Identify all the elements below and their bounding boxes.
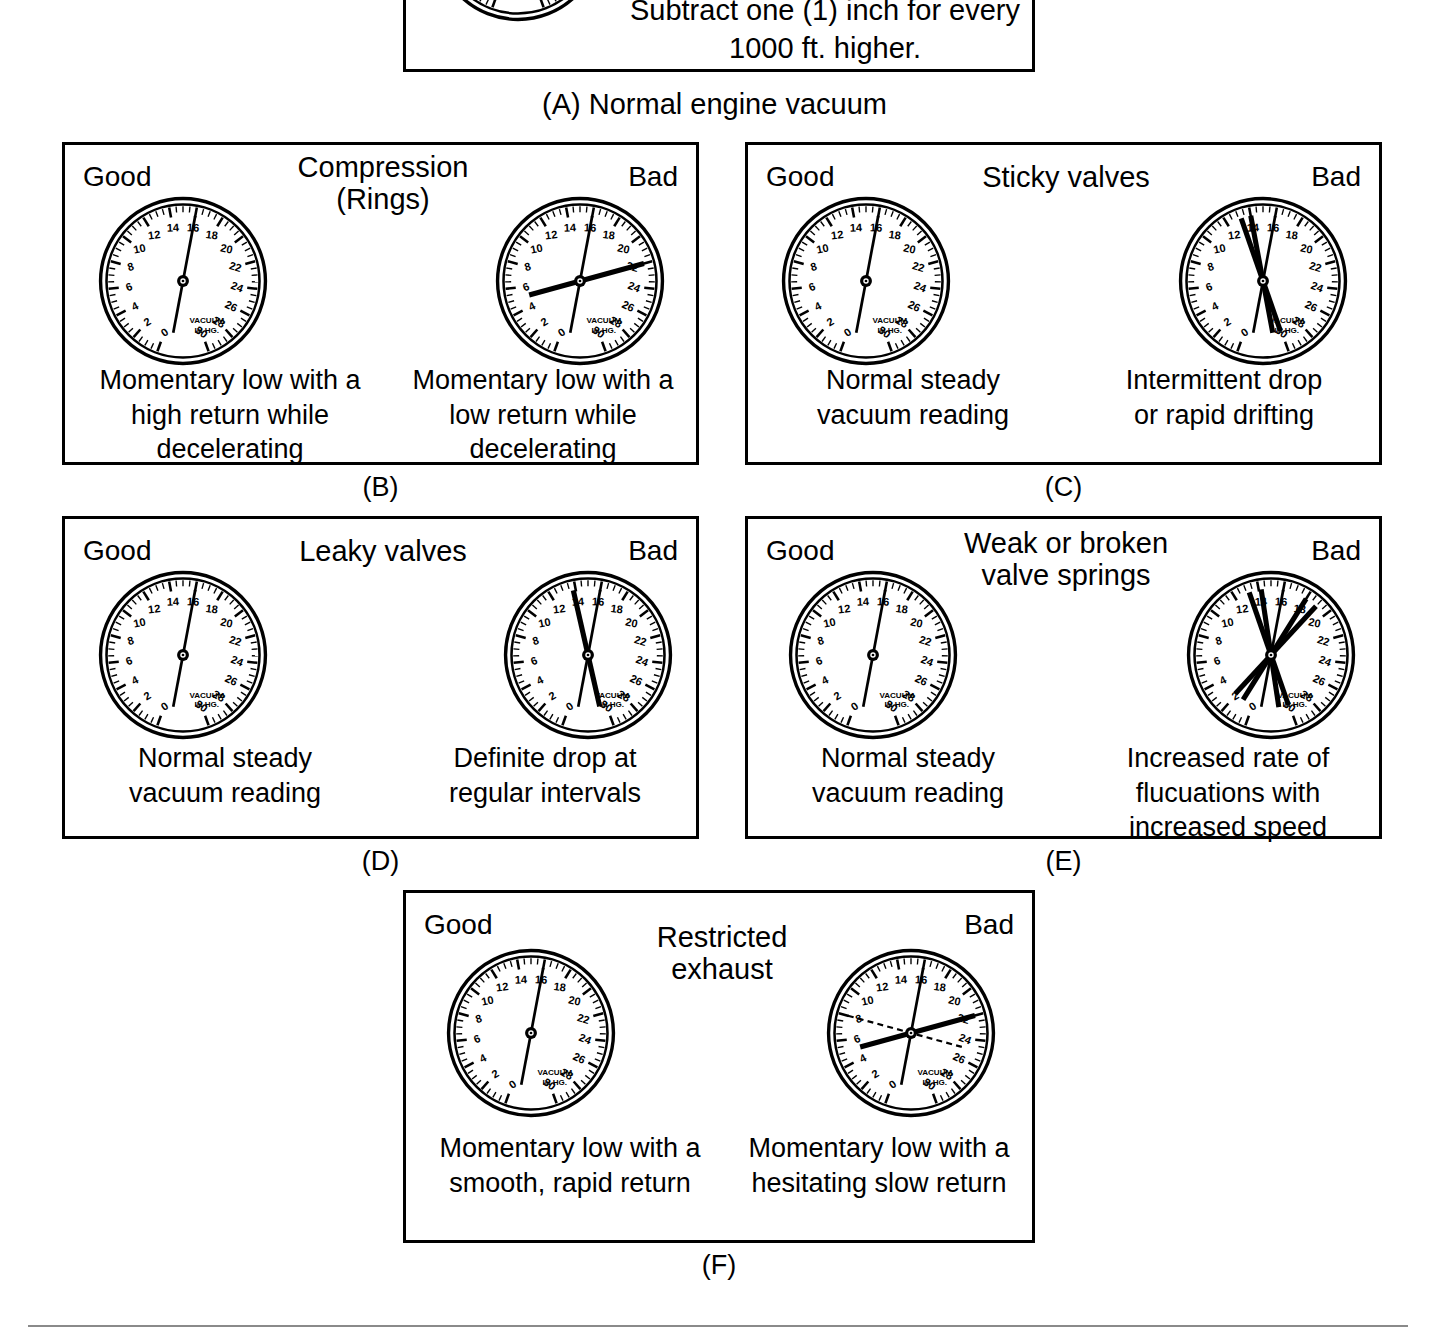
svg-text:10: 10 [480, 993, 494, 1007]
panel-e-good-label: Good [766, 535, 835, 567]
panel-f-good-label: Good [424, 909, 493, 941]
svg-text:10: 10 [1212, 241, 1226, 255]
gauge-panel-f-good: 024681012141618202224262830VACUUMIN HG. [446, 948, 616, 1118]
svg-text:18: 18 [602, 228, 616, 241]
svg-text:IN HG.: IN HG. [922, 1078, 947, 1087]
svg-text:VACUUM: VACUUM [917, 1069, 952, 1078]
panel-c-bad-label: Bad [1311, 161, 1361, 193]
svg-text:IN HG.: IN HG. [877, 326, 902, 335]
panel-e: Good Bad Weak or broken valve springs 02… [745, 516, 1382, 839]
svg-text:12: 12 [147, 228, 161, 241]
gauge-panel-d-bad: 024681012141618202224262830VACUUMIN HG. [503, 570, 673, 740]
panel-b-bad-label: Bad [628, 161, 678, 193]
panel-c-header-line1: Sticky valves [916, 161, 1216, 193]
panel-e-header-line2: valve springs [916, 559, 1216, 591]
svg-text:IN HG.: IN HG. [194, 700, 219, 709]
panel-d-good-label: Good [83, 535, 152, 567]
svg-text:10: 10 [529, 241, 543, 255]
svg-text:12: 12 [147, 602, 161, 615]
svg-text:IN HG.: IN HG. [599, 700, 624, 709]
panel-d-letter: (D) [62, 846, 699, 877]
svg-text:10: 10 [1220, 615, 1234, 629]
panel-c: Good Bad Sticky valves 02468101214161820… [745, 142, 1382, 465]
svg-text:14: 14 [515, 973, 529, 986]
panel-e-bad-caption: Increased rate of flucuations with incre… [1078, 741, 1378, 845]
svg-text:12: 12 [830, 228, 844, 241]
footer-divider [28, 1325, 1408, 1327]
svg-text:10: 10 [537, 615, 551, 629]
panel-c-letter: (C) [745, 472, 1382, 503]
svg-text:14: 14 [857, 595, 871, 608]
svg-text:20: 20 [1299, 241, 1313, 255]
panel-b-header-line1: Compression [233, 151, 533, 183]
panel-c-good-caption: Normal steady vacuum reading [758, 363, 1068, 432]
svg-text:IN HG.: IN HG. [194, 326, 219, 335]
gauge-panel-e-bad: 024681012141618202224262830VACUUMIN HG. [1186, 570, 1356, 740]
svg-text:14: 14 [167, 221, 181, 234]
svg-text:14: 14 [167, 595, 181, 608]
svg-text:20: 20 [947, 993, 961, 1007]
gauge-panel-c-good: 024681012141618202224262830VACUUMIN HG. [781, 196, 951, 366]
svg-text:IN HG.: IN HG. [542, 1078, 567, 1087]
panel-e-good-caption: Normal steady vacuum reading [758, 741, 1058, 810]
svg-text:14: 14 [564, 221, 578, 234]
svg-text:18: 18 [888, 228, 902, 241]
gauge-panel-e-good: 024681012141618202224262830VACUUMIN HG. [788, 570, 958, 740]
svg-text:20: 20 [616, 241, 630, 255]
panel-d-good-caption: Normal steady vacuum reading [75, 741, 375, 810]
svg-text:10: 10 [815, 241, 829, 255]
panel-b-good-label: Good [83, 161, 152, 193]
svg-text:14: 14 [850, 221, 864, 234]
panel-f-good-caption: Momentary low with a smooth, rapid retur… [410, 1131, 730, 1200]
panel-e-header: Weak or broken valve springs [916, 527, 1216, 592]
svg-text:18: 18 [610, 602, 624, 615]
panel-d-header-line1: Leaky valves [233, 535, 533, 567]
svg-text:10: 10 [132, 615, 146, 629]
svg-text:20: 20 [219, 241, 233, 255]
svg-text:20: 20 [567, 993, 581, 1007]
svg-text:VACUUM: VACUUM [872, 317, 907, 326]
panel-e-header-line1: Weak or broken [916, 527, 1216, 559]
panel-a-caption: (A) Normal engine vacuum [0, 88, 1429, 121]
panel-c-good-label: Good [766, 161, 835, 193]
panel-b-header: Compression (Rings) [233, 151, 533, 216]
svg-text:12: 12 [837, 602, 851, 615]
panel-b-good-caption: Momentary low with a high return while d… [70, 363, 390, 467]
gauge-panel-a: 024681012141618202224262830VACUUMIN HG. [433, 0, 603, 22]
svg-text:18: 18 [895, 602, 909, 615]
svg-text:VACUUM: VACUUM [189, 317, 224, 326]
svg-text:12: 12 [1235, 602, 1249, 615]
panel-f-letter: (F) [403, 1250, 1035, 1281]
svg-text:18: 18 [553, 980, 567, 993]
svg-text:18: 18 [205, 602, 219, 615]
svg-text:14: 14 [895, 973, 909, 986]
panel-e-bad-label: Bad [1311, 535, 1361, 567]
gauge-panel-c-bad: 024681012141618202224262830VACUUMIN HG. [1178, 196, 1348, 366]
svg-text:IN HG.: IN HG. [884, 700, 909, 709]
panel-b: Good Bad Compression (Rings) 02468101214… [62, 142, 699, 465]
svg-text:18: 18 [933, 980, 947, 993]
svg-text:10: 10 [822, 615, 836, 629]
panel-f: Good Bad Restricted exhaust 024681012141… [403, 890, 1035, 1243]
panel-b-header-line2: (Rings) [233, 183, 533, 215]
svg-text:12: 12 [544, 228, 558, 241]
svg-text:12: 12 [495, 980, 509, 993]
svg-text:VACUUM: VACUUM [189, 691, 224, 700]
svg-text:20: 20 [1307, 615, 1321, 629]
svg-text:18: 18 [1285, 228, 1299, 241]
panel-c-header: Sticky valves [916, 161, 1216, 193]
panel-f-bad-label: Bad [964, 909, 1014, 941]
svg-text:VACUUM: VACUUM [586, 317, 621, 326]
svg-text:10: 10 [132, 241, 146, 255]
gauge-panel-f-bad: 024681012141618202224262830VACUUMIN HG. [826, 948, 996, 1118]
svg-text:18: 18 [205, 228, 219, 241]
svg-text:12: 12 [875, 980, 889, 993]
gauge-panel-b-bad: 024681012141618202224262830VACUUMIN HG. [495, 196, 665, 366]
svg-text:VACUUM: VACUUM [879, 691, 914, 700]
panel-d-header: Leaky valves [233, 535, 533, 567]
svg-text:20: 20 [624, 615, 638, 629]
panel-a-note: Subtract one (1) inch for every 1000 ft.… [625, 0, 1025, 67]
svg-text:20: 20 [219, 615, 233, 629]
svg-text:20: 20 [902, 241, 916, 255]
svg-text:IN HG.: IN HG. [591, 326, 616, 335]
